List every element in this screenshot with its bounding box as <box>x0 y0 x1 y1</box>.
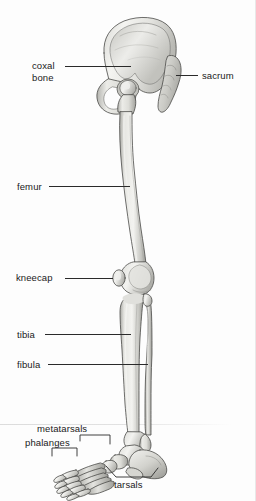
femur-shape <box>120 112 146 264</box>
tarsals-shape <box>101 445 167 479</box>
tibia-leader-line <box>45 334 131 335</box>
kneecap-shape <box>113 270 125 286</box>
femur-leader-line <box>49 186 130 187</box>
label-metatarsals: metatarsals <box>37 423 87 435</box>
label-fibula: fibula <box>17 359 40 371</box>
label-coxal-bone: coxal bone <box>32 60 78 83</box>
metatarsals-bracket <box>80 435 110 444</box>
label-sacrum: sacrum <box>202 70 234 82</box>
label-phalanges: phalanges <box>25 437 70 449</box>
label-tarsals: tarsals <box>114 479 143 491</box>
fibula-leader-line <box>48 364 148 365</box>
phalanges-bracket <box>52 448 77 456</box>
kneecap-leader-line <box>65 278 113 279</box>
label-tibia: tibia <box>17 329 35 341</box>
label-kneecap: kneecap <box>16 272 53 284</box>
label-coxal-bone-line2: bone <box>32 72 54 83</box>
label-coxal-bone-line1: coxal <box>32 60 55 71</box>
sacrum-leader-line <box>176 75 198 76</box>
label-femur: femur <box>17 181 42 193</box>
anatomy-figure: coxal bone sacrum femur kneecap tibia fi… <box>0 0 256 501</box>
